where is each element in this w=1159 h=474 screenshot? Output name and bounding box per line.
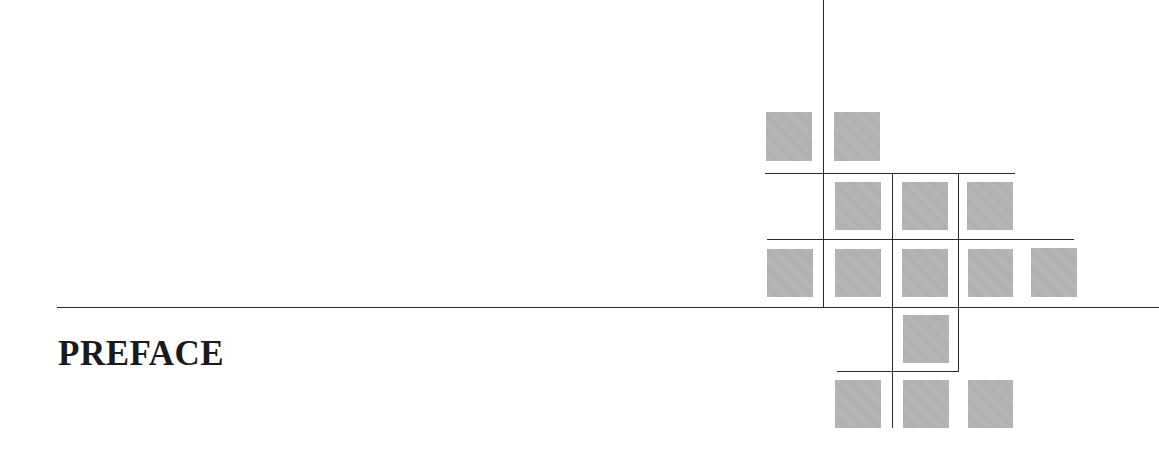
rule-line xyxy=(57,307,1159,308)
gray-square xyxy=(835,380,881,428)
rule-line xyxy=(823,0,824,307)
decorative-square-grid xyxy=(0,0,1159,474)
rule-line xyxy=(765,173,1015,174)
rule-line xyxy=(958,173,959,371)
gray-square xyxy=(968,249,1013,297)
gray-square xyxy=(903,315,949,363)
gray-square xyxy=(967,182,1013,230)
rule-line xyxy=(767,239,1074,240)
gray-square xyxy=(902,249,948,297)
gray-square xyxy=(968,380,1013,428)
rule-line xyxy=(837,371,959,372)
gray-square xyxy=(1031,248,1077,297)
rule-line xyxy=(892,173,893,428)
gray-square xyxy=(767,249,813,297)
gray-square xyxy=(835,182,881,230)
gray-square xyxy=(834,112,880,161)
gray-square xyxy=(902,182,948,230)
gray-square xyxy=(766,112,812,161)
gray-square xyxy=(835,249,881,297)
page-title: PREFACE xyxy=(58,336,224,371)
gray-square xyxy=(903,380,949,428)
